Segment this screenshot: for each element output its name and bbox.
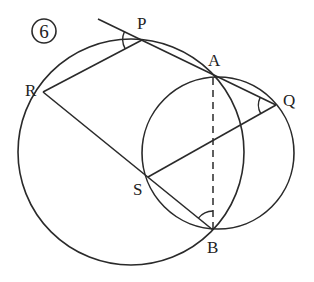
problem-number: 6 <box>39 21 49 42</box>
label-Q: Q <box>283 91 295 110</box>
label-R: R <box>25 81 37 100</box>
small-circle <box>142 77 294 229</box>
label-A: A <box>208 51 221 70</box>
angle-mark-P <box>123 32 125 49</box>
angle-mark-Q <box>258 97 260 113</box>
label-B: B <box>207 238 218 257</box>
label-S: S <box>133 180 142 199</box>
angle-mark-B <box>198 211 213 218</box>
segment-Q-S <box>148 105 276 177</box>
geometry-figure: 6 P A Q R S B <box>0 0 314 282</box>
segment-R-S-B <box>43 92 213 230</box>
problem-number-badge: 6 <box>32 19 56 43</box>
label-P: P <box>137 14 146 33</box>
